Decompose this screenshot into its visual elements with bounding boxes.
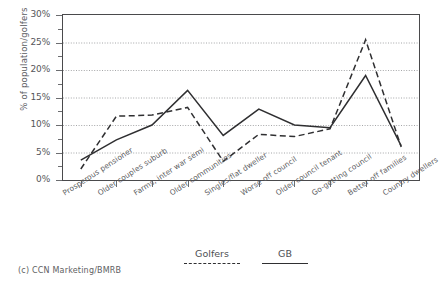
legend-swatch-gb	[262, 263, 308, 264]
y-tick-label: 10%	[16, 119, 50, 129]
y-tick-label: 5%	[16, 147, 50, 157]
legend-label-gb: GB	[256, 248, 314, 259]
chart-legend: GolfersGB	[178, 248, 328, 270]
y-tick-label: 25%	[16, 37, 50, 47]
legend-swatch-golfers	[184, 263, 240, 264]
chart-figure: % of population/golfers 0%5%10%15%20%25%…	[0, 0, 444, 286]
credit-note: (c) CCN Marketing/BMRB	[18, 266, 121, 275]
y-tick-label: 0%	[16, 174, 50, 184]
y-tick-label: 20%	[16, 64, 50, 74]
y-tick-label: 15%	[16, 92, 50, 102]
y-tick-label: 30%	[16, 9, 50, 19]
legend-label-golfers: Golfers	[178, 248, 246, 259]
